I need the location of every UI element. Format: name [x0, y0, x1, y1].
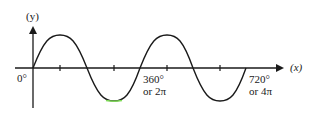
origin-label: 0°	[17, 72, 27, 84]
tick-label-2pi: or 2π	[143, 85, 166, 97]
tick-label-720: 720°	[249, 73, 270, 85]
x-axis-label: (x)	[290, 61, 303, 74]
tick-label-4pi: or 4π	[249, 85, 272, 97]
sine-wave-diagram: (y) (x) 0° 360° or 2π 720° or 4π	[0, 0, 312, 113]
y-axis-label: (y)	[26, 10, 39, 23]
tick-label-360: 360°	[143, 73, 164, 85]
trough-highlight	[106, 101, 122, 102]
